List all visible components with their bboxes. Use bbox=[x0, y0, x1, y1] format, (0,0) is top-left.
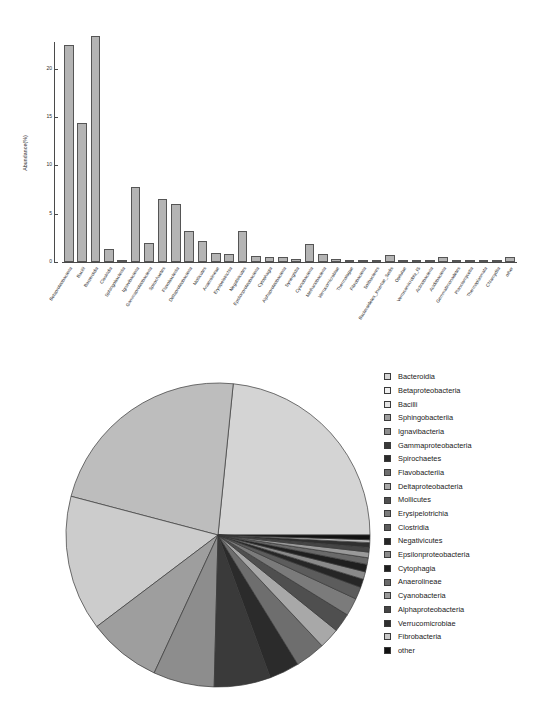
legend-item: Cyanobacteria bbox=[384, 589, 534, 603]
bar-slot bbox=[316, 30, 329, 262]
bar-slot bbox=[463, 30, 476, 262]
y-axis-tick-label: 0 bbox=[49, 258, 52, 264]
legend-item-label: Erysipelotrichia bbox=[398, 510, 448, 517]
bar-slot bbox=[209, 30, 222, 262]
bar-slot bbox=[156, 30, 169, 262]
legend-item: Alphaproteobacteria bbox=[384, 603, 534, 617]
bar-slot bbox=[383, 30, 396, 262]
bar bbox=[144, 243, 154, 262]
bar bbox=[171, 204, 181, 262]
legend-swatch-icon bbox=[384, 565, 391, 572]
bar bbox=[198, 241, 208, 262]
bar-chart-panel: Abundance(%) 05101520 Betaproteobacteria… bbox=[0, 0, 535, 340]
bar bbox=[318, 254, 328, 262]
y-axis-tick-label: 5 bbox=[49, 210, 52, 216]
bar bbox=[238, 231, 248, 262]
bar-slot bbox=[410, 30, 423, 262]
legend-swatch-icon bbox=[384, 483, 391, 490]
bar-slot bbox=[396, 30, 409, 262]
legend-swatch-icon bbox=[384, 414, 391, 421]
legend-item: Sphingobacteriia bbox=[384, 411, 534, 425]
legend-swatch-icon bbox=[384, 497, 391, 504]
pie-chart-panel: Bacteroidia: 23.4%Betaproteobacteria: 22… bbox=[0, 350, 535, 725]
bar bbox=[64, 45, 74, 263]
legend-swatch-icon bbox=[384, 373, 391, 380]
bar-slot bbox=[169, 30, 182, 262]
bar bbox=[158, 199, 168, 262]
bar bbox=[77, 123, 87, 262]
bar bbox=[305, 244, 315, 262]
legend-swatch-icon bbox=[384, 592, 391, 599]
bar-slot bbox=[276, 30, 289, 262]
x-axis-line bbox=[62, 262, 517, 263]
legend-item: Bacilli bbox=[384, 397, 534, 411]
y-axis-tick-label: 20 bbox=[46, 65, 52, 71]
bar-slot bbox=[196, 30, 209, 262]
x-axis-label: Bacilli bbox=[76, 266, 87, 279]
bar bbox=[131, 187, 141, 262]
bar-slot bbox=[343, 30, 356, 262]
legend-swatch-icon bbox=[384, 428, 391, 435]
legend-item: Bacteroidia bbox=[384, 370, 534, 384]
legend-swatch-icon bbox=[384, 538, 391, 545]
legend-item-label: Bacteroidia bbox=[398, 373, 435, 380]
legend-item: Negativicutes bbox=[384, 534, 534, 548]
legend-item: Betaproteobacteria bbox=[384, 384, 534, 398]
bar-slot bbox=[503, 30, 516, 262]
legend-item: Ignavibacteria bbox=[384, 425, 534, 439]
bar-slot bbox=[116, 30, 129, 262]
bar-slot bbox=[129, 30, 142, 262]
y-axis-tick: 20 bbox=[54, 69, 58, 70]
legend-swatch-icon bbox=[384, 469, 391, 476]
bar-slot bbox=[423, 30, 436, 262]
legend-swatch-icon bbox=[384, 387, 391, 394]
legend-item: Epsilonproteobacteria bbox=[384, 548, 534, 562]
legend-item-label: Clostridia bbox=[398, 524, 429, 531]
x-axis-label: Opitutae bbox=[394, 266, 407, 283]
bar-slot bbox=[62, 30, 75, 262]
legend-swatch-icon bbox=[384, 524, 391, 531]
bar-slot bbox=[75, 30, 88, 262]
bar-slot bbox=[142, 30, 155, 262]
bar-slot bbox=[89, 30, 102, 262]
legend-item-label: Epsilonproteobacteria bbox=[398, 551, 470, 558]
bar-series bbox=[62, 30, 517, 262]
y-axis-tick: 5 bbox=[54, 214, 58, 215]
legend-item: Spirochaetes bbox=[384, 452, 534, 466]
bar-slot bbox=[223, 30, 236, 262]
bar-slot bbox=[330, 30, 343, 262]
y-axis-tick-label: 15 bbox=[46, 113, 52, 119]
bar-slot bbox=[182, 30, 195, 262]
bar-slot bbox=[490, 30, 503, 262]
y-axis-tick-label: 10 bbox=[46, 161, 52, 167]
bar-slot bbox=[437, 30, 450, 262]
legend-item: Gammaproteobacteria bbox=[384, 438, 534, 452]
x-axis-label: Betaproteobacteria bbox=[48, 266, 73, 302]
legend-item-label: Cytophagia bbox=[398, 565, 435, 572]
legend-item-label: Mollicutes bbox=[398, 496, 431, 503]
y-axis-line bbox=[54, 42, 55, 262]
legend-item-label: Negativicutes bbox=[398, 537, 442, 544]
legend-item: Deltaproteobacteria bbox=[384, 480, 534, 494]
bar-slot bbox=[303, 30, 316, 262]
legend-item: Verrucomicrobiae bbox=[384, 616, 534, 630]
bar-slot bbox=[263, 30, 276, 262]
legend-item-label: Fibrobacteria bbox=[398, 633, 441, 640]
x-axis-label: other bbox=[505, 266, 515, 278]
legend-item: Fibrobacteria bbox=[384, 630, 534, 644]
legend-swatch-icon bbox=[384, 455, 391, 462]
x-axis-label: Epsilonproteobacteria bbox=[232, 266, 260, 306]
legend-item-label: Deltaproteobacteria bbox=[398, 483, 463, 490]
pie-slice: Bacteroidia: 23.4% bbox=[218, 384, 370, 535]
legend-item: Flavobacteriia bbox=[384, 466, 534, 480]
legend-swatch-icon bbox=[384, 579, 391, 586]
bar-slot bbox=[477, 30, 490, 262]
legend-swatch-icon bbox=[384, 633, 391, 640]
bar bbox=[104, 249, 114, 262]
legend-item-label: Anaerolineae bbox=[398, 578, 442, 585]
legend-swatch-icon bbox=[384, 401, 391, 408]
legend-item-label: Sphingobacteriia bbox=[398, 414, 453, 421]
bar-chart-y-axis-label: Abundance(%) bbox=[22, 108, 28, 198]
legend-swatch-icon bbox=[384, 647, 391, 654]
legend-item-label: Betaproteobacteria bbox=[398, 387, 460, 394]
